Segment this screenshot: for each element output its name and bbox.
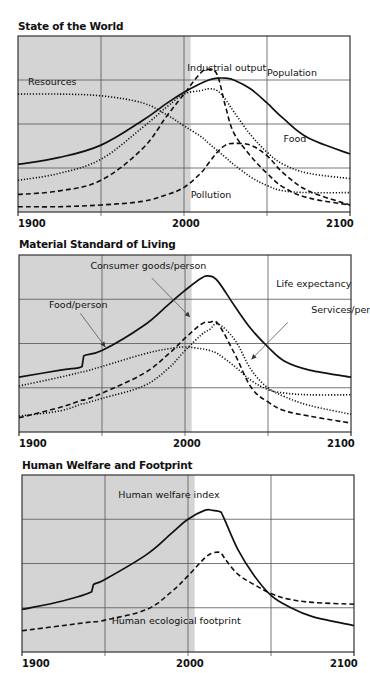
plot-area: Human welfare indexHuman ecological foot… <box>22 475 354 656</box>
chart-human-welfare-and-footprint: Human welfare indexHuman ecological foot… <box>0 0 370 673</box>
x-tick-2000: 2000 <box>176 658 204 669</box>
x-tick-1900: 1900 <box>22 658 50 669</box>
annotation-human-welfare-index: Human welfare index <box>118 489 220 500</box>
annotation-human-ecological-footprint: Human ecological footprint <box>112 615 241 626</box>
x-tick-2100: 2100 <box>330 658 358 669</box>
